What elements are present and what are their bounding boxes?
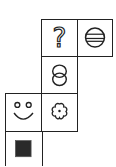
question-mark-icon: ? bbox=[42, 24, 77, 52]
grid-cell-smiley bbox=[5, 93, 43, 132]
smiley-face-icon bbox=[6, 94, 42, 131]
flower-icon bbox=[42, 94, 77, 131]
grid-cell-flower bbox=[41, 93, 78, 132]
grid-cell-question: ? bbox=[41, 19, 78, 57]
grid-cell-two-circles bbox=[41, 56, 78, 95]
filled-square-icon bbox=[6, 132, 42, 167]
grid-cell-square bbox=[5, 131, 43, 167]
grid-cell-circle-lines bbox=[77, 19, 113, 57]
circle-with-lines-icon bbox=[78, 20, 112, 56]
two-overlapping-circles-icon bbox=[42, 57, 77, 94]
